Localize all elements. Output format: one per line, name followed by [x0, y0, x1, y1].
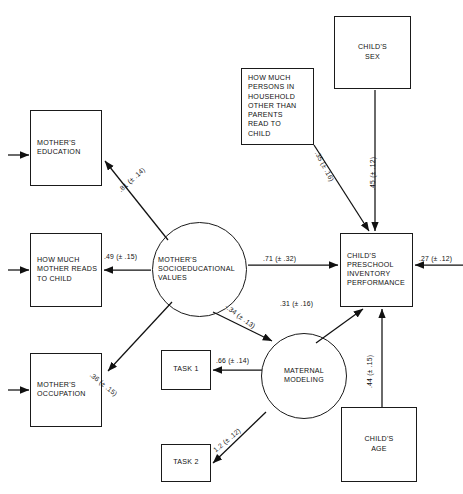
edge-modeling-to-task2: [213, 412, 266, 463]
node-maternal-modeling[interactable]: MATERNAL MODELING: [261, 333, 347, 419]
node-how-much-mother-reads-to-child[interactable]: HOW MUCH MOTHER READS TO CHILD: [30, 233, 102, 307]
node-label: CHILD'S PRESCHOOL INVENTORY PERFORMANCE: [341, 252, 405, 289]
path-label-age-to-preschool: .44 (± .15): [366, 355, 373, 388]
node-label: MOTHER'S OCCUPATION: [31, 381, 86, 399]
node-label: HOW MUCH MOTHER READS TO CHILD: [31, 256, 97, 284]
path-label-sex-to-preschool: .45 (± .12): [369, 157, 376, 190]
path-label-modeling-to-preschool: .31 (± .16): [280, 300, 313, 307]
node-childs-preschool-inventory-performance[interactable]: CHILD'S PRESCHOOL INVENTORY PERFORMANCE: [340, 233, 413, 307]
node-mothers-education[interactable]: MOTHER'S EDUCATION: [30, 110, 102, 186]
node-mothers-socioeducational-values[interactable]: MOTHER'S SOCIOEDUCATIONAL VALUES: [152, 222, 247, 317]
node-label: HOW MUCH PERSONS IN HOUSEHOLD OTHER THAN…: [242, 74, 296, 138]
node-task-2[interactable]: TASK 2: [161, 444, 211, 482]
node-childs-sex[interactable]: CHILD'S SEX: [334, 16, 411, 89]
node-label: CHILD'S SEX: [358, 43, 387, 61]
node-childs-age[interactable]: CHILD'S AGE: [341, 407, 417, 482]
node-label: CHILD'S AGE: [364, 435, 393, 453]
path-label-residual-preschool: .27 (± .12): [419, 255, 452, 262]
node-task-1[interactable]: TASK 1: [161, 350, 211, 390]
node-label: TASK 2: [173, 458, 198, 467]
node-label: MATERNAL MODELING: [284, 367, 324, 385]
node-label: MOTHER'S EDUCATION: [31, 139, 81, 157]
path-label-modeling-to-task1: .66 (± .14): [216, 357, 249, 364]
node-mothers-occupation[interactable]: MOTHER'S OCCUPATION: [30, 353, 102, 427]
path-label-values-to-reads: .49 (± .15): [104, 253, 137, 260]
node-label: TASK 1: [173, 365, 198, 374]
node-label: MOTHER'S SOCIOEDUCATIONAL VALUES: [158, 256, 235, 284]
node-how-much-persons-in-household[interactable]: HOW MUCH PERSONS IN HOUSEHOLD OTHER THAN…: [241, 68, 314, 145]
path-label-values-to-preschool: .71 (± .32): [263, 255, 296, 262]
path-diagram-canvas: MOTHER'S EDUCATION HOW MUCH MOTHER READS…: [0, 0, 463, 494]
